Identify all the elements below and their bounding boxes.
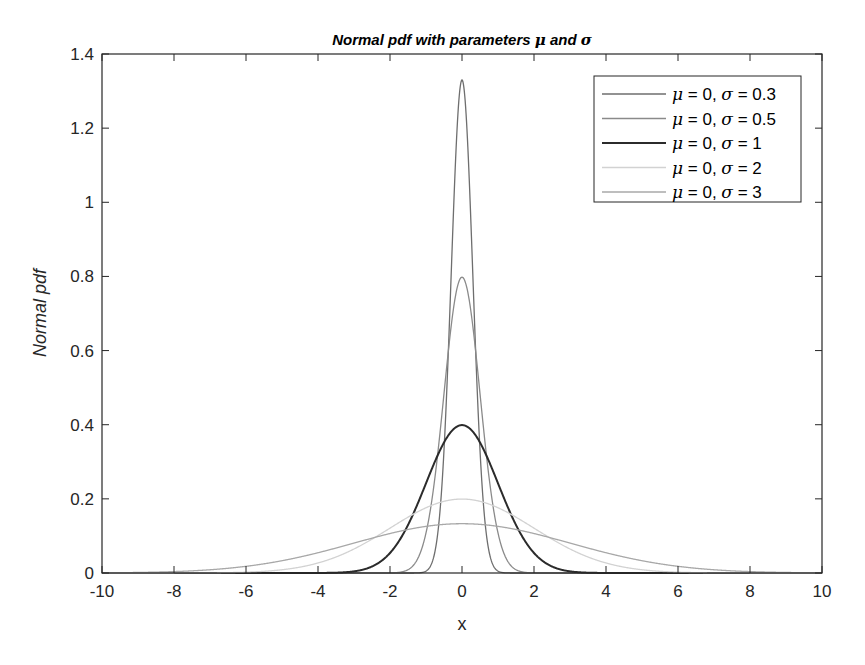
legend-entry-label: μ = 0, σ = 0.5 — [672, 109, 776, 129]
x-tick-label: 6 — [673, 582, 682, 601]
y-tick-label: 1 — [85, 193, 94, 212]
x-tick-label: 2 — [529, 582, 538, 601]
y-tick-label: 0 — [85, 564, 94, 583]
series-line-sigma-3 — [102, 524, 822, 573]
chart-title: Normal pdf with parameters μ and σ — [332, 31, 593, 49]
x-axis-label: x — [458, 614, 467, 634]
y-axis-label: Normal pdf — [30, 267, 50, 357]
legend-entry-label: μ = 0, σ = 0.3 — [672, 84, 776, 104]
normal-pdf-chart: Normal pdf with parameters μ and σ -10-8… — [0, 0, 865, 665]
x-tick-label: 0 — [457, 582, 466, 601]
y-tick-label: 0.8 — [70, 267, 94, 286]
y-tick-label: 0.6 — [70, 342, 94, 361]
legend-entry-label: μ = 0, σ = 2 — [672, 158, 762, 178]
x-tick-label: -2 — [382, 582, 397, 601]
legend-entry-label: μ = 0, σ = 3 — [672, 182, 762, 202]
legend: μ = 0, σ = 0.3μ = 0, σ = 0.5μ = 0, σ = 1… — [594, 76, 801, 202]
x-tick-label: -8 — [166, 582, 181, 601]
y-tick-label: 0.2 — [70, 490, 94, 509]
y-tick-label: 1.4 — [70, 45, 94, 64]
x-tick-label: 8 — [745, 582, 754, 601]
y-tick-label: 0.4 — [70, 416, 94, 435]
x-tick-label: -10 — [90, 582, 115, 601]
x-tick-label: -4 — [310, 582, 325, 601]
series-line-sigma-2 — [102, 499, 822, 573]
x-tick-label: 10 — [813, 582, 832, 601]
x-tick-label: -6 — [238, 582, 253, 601]
y-tick-label: 1.2 — [70, 119, 94, 138]
x-tick-label: 4 — [601, 582, 610, 601]
legend-entry-label: μ = 0, σ = 1 — [672, 133, 762, 153]
